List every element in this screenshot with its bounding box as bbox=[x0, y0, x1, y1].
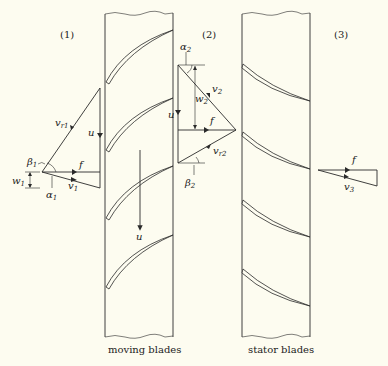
station-1-label: (1) bbox=[60, 29, 74, 40]
stator-blades-panel bbox=[242, 11, 310, 338]
station-3-label: (3) bbox=[334, 29, 348, 40]
v2-label: v2 bbox=[212, 83, 223, 96]
moving-blade bbox=[106, 235, 173, 289]
alpha2-label: α2 bbox=[180, 41, 192, 54]
beta1-label: β1 bbox=[26, 156, 37, 169]
blade-velocity-label: u bbox=[136, 231, 142, 242]
f2-label: f bbox=[209, 115, 216, 126]
vr1-label: vr1 bbox=[55, 117, 68, 130]
f3-label: f bbox=[351, 154, 358, 165]
velocity-triangle-1 bbox=[25, 88, 103, 188]
w1-label: w1 bbox=[12, 175, 25, 188]
moving-blade bbox=[106, 166, 173, 220]
u1-label: u bbox=[88, 127, 94, 138]
moving-blade bbox=[106, 30, 173, 84]
f1-label: f bbox=[78, 159, 85, 170]
station-2-label: (2) bbox=[202, 29, 216, 40]
moving-blades-panel: u bbox=[105, 11, 173, 338]
stator-blade bbox=[242, 200, 310, 237]
stator-blade bbox=[242, 269, 310, 306]
alpha1-label: α1 bbox=[46, 189, 57, 202]
v3-label: v3 bbox=[344, 181, 355, 194]
velocity-triangle-2 bbox=[175, 52, 236, 175]
u2-label: u bbox=[168, 109, 174, 120]
stator-blade bbox=[242, 64, 310, 101]
moving-blade bbox=[106, 98, 173, 152]
vr2-label: vr2 bbox=[213, 145, 227, 158]
stator-blade bbox=[242, 132, 310, 169]
stator-blades-caption: stator blades bbox=[248, 344, 314, 355]
beta2-label: β2 bbox=[184, 177, 196, 190]
w2-label: w2 bbox=[195, 93, 209, 106]
turbine-stage-diagram: (1) (2) (3) u moving blades stator blade… bbox=[0, 0, 388, 366]
moving-blades-caption: moving blades bbox=[108, 344, 181, 355]
